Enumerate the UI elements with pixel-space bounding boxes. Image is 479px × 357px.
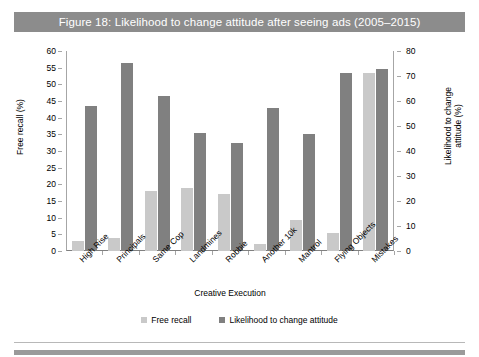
legend-label: Free recall (151, 315, 191, 325)
y-axis-right-tick-label: 0 (406, 247, 411, 256)
y-axis-left: 051015202530354045505560 (22, 51, 62, 251)
y-axis-left-tick-mark (58, 184, 62, 185)
bar-free-recall-7 (327, 233, 339, 251)
legend-item-0[interactable]: Free recall (141, 314, 191, 325)
figure-title: Figure 18: Likelihood to change attitude… (14, 12, 465, 32)
y-axis-right: 01020304050607080 (396, 51, 436, 251)
y-axis-left-tick-label: 45 (47, 97, 56, 106)
bar-likelihood-8 (376, 69, 388, 251)
y-axis-left-tick-label: 55 (47, 64, 56, 73)
legend-label: Likelihood to change attitude (229, 315, 337, 325)
x-axis-tick-mark (358, 251, 359, 255)
y-axis-right-tick-label: 60 (406, 97, 415, 106)
y-axis-right-tick-mark (397, 251, 401, 252)
bar-free-recall-2 (145, 191, 157, 251)
x-axis-tick-mark (248, 251, 249, 255)
y-axis-left-tick-mark (58, 218, 62, 219)
y-axis-left-tick-label: 0 (51, 247, 56, 256)
x-axis-tick-mark (285, 251, 286, 255)
y-axis-left-tick-mark (58, 101, 62, 102)
y-axis-left-tick-mark (58, 168, 62, 169)
legend-swatch-icon (219, 317, 225, 323)
x-axis-tick-mark (175, 251, 176, 255)
bar-likelihood-6 (303, 134, 315, 251)
y-axis-left-tick-mark (58, 251, 62, 252)
bar-free-recall-4 (218, 194, 230, 251)
bar-likelihood-5 (267, 108, 279, 251)
y-axis-left-tick-label: 20 (47, 180, 56, 189)
footer-rule-thin (14, 342, 465, 343)
y-axis-right-tick-label: 20 (406, 197, 415, 206)
y-axis-left-title: Free recall (%) (15, 77, 25, 177)
y-axis-right-tick-mark (397, 176, 401, 177)
y-axis-right-title: Likelihood to change attitude (%) (443, 76, 463, 176)
x-axis-tick-mark (212, 251, 213, 255)
y-axis-right-tick-mark (397, 126, 401, 127)
bar-free-recall-5 (254, 244, 266, 251)
y-axis-left-tick-label: 60 (47, 47, 56, 56)
y-axis-left-tick-mark (58, 118, 62, 119)
chart-area: 051015202530354045505560 010203040506070… (0, 34, 479, 324)
y-axis-right-tick-mark (397, 226, 401, 227)
bar-likelihood-3 (194, 133, 206, 251)
y-axis-right-tick-label: 10 (406, 222, 415, 231)
y-axis-left-tick-mark (58, 84, 62, 85)
y-axis-right-tick-label: 40 (406, 147, 415, 156)
y-axis-right-tick-mark (397, 51, 401, 52)
y-axis-left-tick-mark (58, 151, 62, 152)
y-axis-right-tick-label: 70 (406, 72, 415, 81)
x-axis-title: Creative Execution (66, 288, 394, 298)
bar-likelihood-4 (231, 143, 243, 251)
y-axis-left-tick-label: 30 (47, 147, 56, 156)
bar-likelihood-2 (158, 96, 170, 251)
y-axis-right-tick-label: 80 (406, 47, 415, 56)
y-axis-right-tick-mark (397, 101, 401, 102)
y-axis-left-tick-label: 5 (51, 230, 56, 239)
bar-likelihood-1 (121, 63, 133, 251)
y-axis-left-tick-label: 15 (47, 197, 56, 206)
y-axis-right-tick-mark (397, 201, 401, 202)
y-axis-right-tick-label: 50 (406, 122, 415, 131)
bar-likelihood-7 (340, 73, 352, 251)
x-axis-tick-mark (139, 251, 140, 255)
y-axis-left-tick-mark (58, 234, 62, 235)
x-axis-tick-mark (102, 251, 103, 255)
bar-free-recall-3 (181, 188, 193, 251)
footer-rule-thick (14, 350, 465, 355)
y-axis-left-tick-mark (58, 134, 62, 135)
bar-free-recall-1 (108, 238, 120, 251)
y-axis-left-tick-mark (58, 201, 62, 202)
y-axis-left-tick-label: 10 (47, 214, 56, 223)
bar-free-recall-0 (72, 241, 84, 251)
y-axis-right-tick-label: 30 (406, 172, 415, 181)
y-axis-left-tick-label: 25 (47, 164, 56, 173)
y-axis-right-tick-mark (397, 76, 401, 77)
legend: Free recallLikelihood to change attitude (0, 314, 479, 325)
y-axis-left-tick-mark (58, 68, 62, 69)
x-axis-tick-mark (394, 251, 395, 255)
legend-swatch-icon (141, 317, 147, 323)
y-axis-left-tick-mark (58, 51, 62, 52)
y-axis-left-tick-label: 50 (47, 80, 56, 89)
bar-likelihood-0 (85, 106, 97, 251)
legend-item-1[interactable]: Likelihood to change attitude (219, 314, 337, 325)
y-axis-left-tick-label: 40 (47, 114, 56, 123)
y-axis-left-tick-label: 35 (47, 130, 56, 139)
x-axis-tick-mark (321, 251, 322, 255)
y-axis-right-tick-mark (397, 151, 401, 152)
